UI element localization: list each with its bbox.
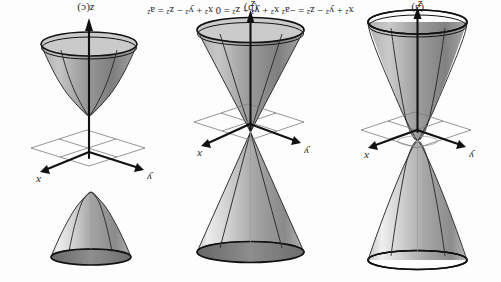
equation-line-clipped: x² + y² − z² = −a² x² + y² − z² = 0 x² +… [0, 0, 501, 16]
panel-b-y-label: y [304, 146, 310, 158]
panel-c-x-label: x [36, 175, 42, 187]
panel-b-y-axis [250, 124, 301, 145]
panel-c-drawing: x y z [0, 0, 167, 282]
panel-a-y-label: y [469, 150, 475, 162]
panel-b-drawing: x y z [167, 0, 334, 282]
panel-c-y-axis [89, 152, 144, 172]
equation-text: x² + y² − z² = −a² x² + y² − z² = 0 x² +… [0, 5, 501, 16]
figure-panel-c: x y z (c) [0, 0, 167, 282]
figure-panel-a: x y z (a) [334, 0, 501, 282]
panel-c-y-label: y [147, 172, 153, 184]
figure-panel-b: x y z (b) [167, 0, 334, 282]
panel-a-drawing: x y z [334, 0, 501, 282]
panel-b-x-axis [201, 124, 250, 148]
panel-a-x-axis [368, 130, 417, 150]
scanned-figure-canvas: x y z (a) [0, 0, 501, 282]
panel-b-x-label: x [197, 149, 203, 161]
panel-a-x-label: x [364, 151, 370, 163]
